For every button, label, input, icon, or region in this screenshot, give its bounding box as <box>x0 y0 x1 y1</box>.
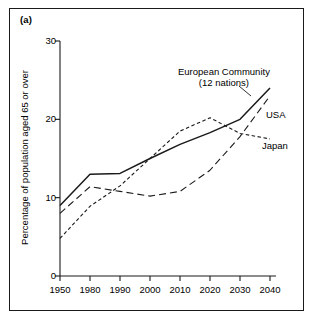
y-tick-label-30: 30 <box>28 35 56 46</box>
x-tick-label-1990: 1990 <box>106 284 134 295</box>
x-tick-label-2000: 2000 <box>136 284 164 295</box>
x-tick-label-2020: 2020 <box>196 284 224 295</box>
y-axis-ticks <box>55 41 60 276</box>
figure-panel-a: (a) Percentage of population aged 65 or … <box>0 0 313 320</box>
series-line-1 <box>60 96 270 213</box>
series-line-0 <box>60 88 270 206</box>
series-label-japan: Japan <box>262 140 288 151</box>
y-tick-label-20: 20 <box>28 113 56 124</box>
x-tick-label-2010: 2010 <box>166 284 194 295</box>
y-tick-label-10: 10 <box>28 192 56 203</box>
x-tick-label-1980: 1980 <box>76 284 104 295</box>
ec-label-line2: (12 nations) <box>199 77 249 88</box>
x-tick-label-2040: 2040 <box>256 284 284 295</box>
x-axis-ticks <box>60 276 270 281</box>
series-label-european-community: European Community (12 nations) <box>178 66 270 88</box>
series-label-usa: USA <box>266 109 286 120</box>
x-tick-label-2030: 2030 <box>226 284 254 295</box>
series-line-2 <box>60 118 270 239</box>
chart-series-layer <box>60 88 270 238</box>
ec-label-line1: European Community <box>178 66 270 77</box>
x-tick-label-1950: 1950 <box>46 284 74 295</box>
y-tick-label-0: 0 <box>28 270 56 281</box>
